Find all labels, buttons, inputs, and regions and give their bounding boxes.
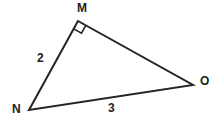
- triangle-outline: [29, 21, 193, 110]
- vertex-label-m: M: [77, 2, 87, 14]
- side-length-label-no: 3: [108, 102, 115, 114]
- vertex-label-n: N: [12, 103, 21, 115]
- vertex-label-o: O: [200, 75, 209, 87]
- side-length-label-mn: 2: [37, 52, 44, 64]
- geometry-figure: M N O 2 3: [0, 0, 216, 123]
